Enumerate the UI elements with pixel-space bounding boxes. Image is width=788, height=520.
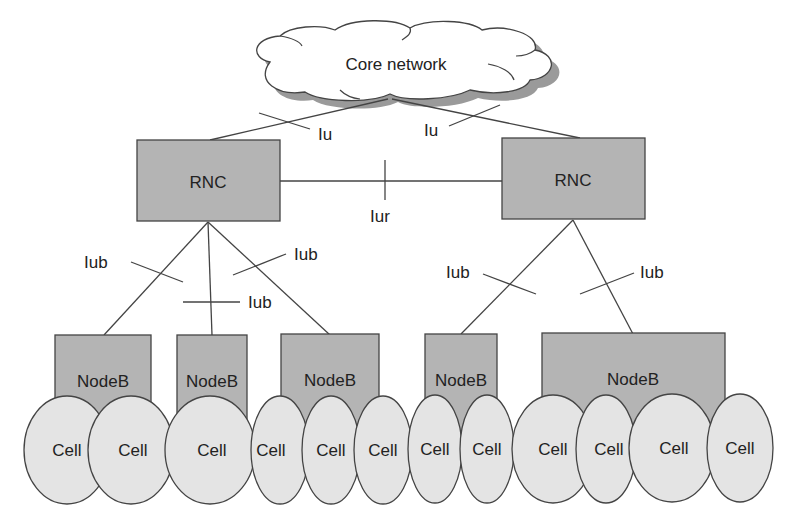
iub-label-3: Iub	[248, 293, 272, 312]
rnc-right: RNC	[502, 138, 645, 219]
iub-label-1: Iub	[84, 253, 108, 272]
nodeb-label: NodeB	[77, 372, 129, 391]
core-network-cloud: Core network	[257, 21, 560, 109]
core-network-label: Core network	[345, 55, 447, 74]
cell-label: Cell	[316, 441, 345, 460]
cell-label: Cell	[52, 441, 81, 460]
iub-tick-5	[580, 273, 634, 294]
cell-label: Cell	[472, 440, 501, 459]
cell-label: Cell	[197, 441, 226, 460]
iu-label-right: Iu	[424, 121, 438, 140]
nodeb-label: NodeB	[607, 370, 659, 389]
iub-link-4	[461, 220, 573, 334]
iub-label-5: Iub	[640, 263, 664, 282]
iub-label-4: Iub	[446, 263, 470, 282]
cell-label: Cell	[538, 440, 567, 459]
iub-tick-1	[131, 262, 183, 282]
iub-link-1	[104, 222, 208, 335]
iub-link-2	[208, 222, 212, 335]
iu-label-left: Iu	[318, 125, 332, 144]
iub-tick-4	[483, 274, 536, 294]
utran-architecture-diagram: Core network Iu Iu Iur Iub Iub Iub Iub I…	[0, 0, 788, 520]
nodeb-label: NodeB	[304, 371, 356, 390]
rnc-left: RNC	[137, 140, 280, 221]
iub-tick-3	[233, 254, 286, 275]
iu-tick-right	[449, 105, 500, 126]
rnc-label: RNC	[190, 173, 227, 192]
iu-link-left	[210, 99, 388, 140]
cell-label: Cell	[659, 439, 688, 458]
rnc-label: RNC	[555, 171, 592, 190]
cell-label: Cell	[725, 439, 754, 458]
cell-label: Cell	[420, 440, 449, 459]
cell-label: Cell	[594, 440, 623, 459]
cell-label: Cell	[256, 441, 285, 460]
nodeb-label: NodeB	[435, 371, 487, 390]
cell-label: Cell	[368, 441, 397, 460]
iub-link-3	[208, 222, 330, 335]
nodeb-label: NodeB	[186, 372, 238, 391]
cell-label: Cell	[118, 441, 147, 460]
iub-label-2: Iub	[294, 245, 318, 264]
iu-link-right	[392, 99, 580, 138]
iur-label: Iur	[370, 207, 390, 226]
